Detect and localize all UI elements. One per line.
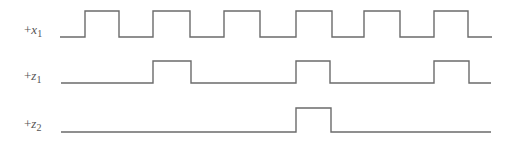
signal-z2-waveform [61,108,491,132]
signal-label-z2: +z2 [24,116,41,133]
label-subscript: 1 [37,28,42,39]
timing-diagram: +x1 +z1 +z2 [0,0,515,141]
signal-x1-waveform [60,11,492,37]
label-subscript: 2 [36,122,41,133]
label-subscript: 1 [36,74,41,85]
signal-label-x1: +x1 [24,22,42,39]
signal-label-z1: +z1 [24,68,41,85]
signal-z1-waveform [61,61,491,83]
waveform-canvas [0,0,515,141]
